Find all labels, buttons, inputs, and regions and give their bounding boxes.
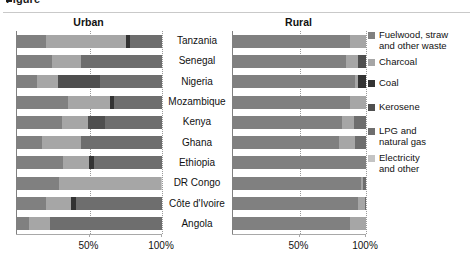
bar-segment [365,197,366,210]
bar-segment [68,96,110,109]
bar-segment [355,136,366,149]
bar-segment [358,75,366,88]
x-axis-tick-label: 50% [67,240,111,251]
bar-urban-tanzania [17,35,162,48]
legend-label: Kerosene [379,102,420,113]
bar-rural-ghana [233,136,366,149]
category-label-c-te-d-ivoire: Côte d'Ivoire [163,198,231,209]
bar-rural-dr-congo [233,177,366,190]
bar-segment [94,156,162,169]
bar-urban-kenya [17,116,162,129]
bar-segment [17,156,63,169]
bar-rural-tanzania [233,35,366,48]
bar-segment [350,217,366,230]
cut-off-figure-title: Figure [0,0,473,12]
bar-segment [358,197,365,210]
bar-segment [363,177,366,190]
legend-label: Coal [379,78,399,89]
bar-segment [17,197,46,210]
plot-area-urban [16,31,162,234]
bar-urban-ethiopia [17,156,162,169]
legend-item-fuelwood[interactable]: Fuelwood, straw and other waste [368,30,448,51]
bar-segment [81,136,162,149]
category-label-ghana: Ghana [163,137,231,148]
bar-segment [17,75,37,88]
bar-segment [346,55,358,68]
bar-urban-dr-congo [17,177,162,190]
category-label-angola: Angola [163,218,231,229]
plot-area-rural [232,31,366,234]
bar-urban-mozambique [17,96,162,109]
bar-segment [76,197,162,210]
bar-segment [233,75,355,88]
bar-segment [339,136,355,149]
legend-item-lpg[interactable]: LPG and natural gas [368,126,426,147]
category-label-mozambique: Mozambique [163,96,231,107]
bar-segment [350,96,366,109]
bar-segment [17,55,52,68]
bar-segment [46,35,126,48]
bar-urban-c-te-d-ivoire [17,197,162,210]
bar-segment [37,75,57,88]
legend-item-coal[interactable]: Coal [368,78,399,89]
bar-segment [233,217,350,230]
legend-label: LPG and natural gas [379,126,426,147]
category-label-tanzania: Tanzania [163,35,231,46]
legend-swatch-icon [368,59,375,66]
category-label-senegal: Senegal [163,55,231,66]
bar-segment [62,116,88,129]
bar-segment [100,75,162,88]
bar-urban-angola [17,217,162,230]
bar-rural-mozambique [233,96,366,109]
category-axis-labels: TanzaniaSenegalNigeriaMozambiqueKenyaGha… [161,31,231,234]
gridline-100 [366,31,367,234]
legend-swatch-icon [368,32,375,39]
x-axis-tick [161,234,162,237]
x-axis-tick-label: 100% [343,240,387,251]
panel-title-urban: Urban [16,16,161,28]
bar-rural-ethiopia [233,156,366,169]
figure-title-text: Figure [6,0,40,5]
bar-segment [42,136,81,149]
bar-segment [233,116,342,129]
bar-segment [342,116,354,129]
bar-segment [114,96,162,109]
legend-item-charcoal[interactable]: Charcoal [368,57,417,68]
legend-label: Fuelwood, straw and other waste [379,30,448,51]
bar-segment [233,35,350,48]
bar-urban-senegal [17,55,162,68]
bar-segment [50,217,162,230]
bar-segment [233,156,366,169]
bar-segment [59,177,161,190]
bar-segment [130,35,162,48]
bar-segment [350,35,366,48]
bar-segment [88,116,105,129]
category-label-nigeria: Nigeria [163,76,231,87]
bar-rural-nigeria [233,75,366,88]
bar-segment [17,177,59,190]
panel-title-rural: Rural [232,16,365,28]
legend-swatch-icon [368,80,375,87]
x-axis-tick [365,234,366,237]
bar-segment [17,116,62,129]
bar-segment [233,197,358,210]
category-label-kenya: Kenya [163,116,231,127]
bar-segment [17,96,68,109]
bar-segment [63,156,89,169]
x-axis-tick [89,234,90,237]
bar-segment [233,177,361,190]
legend-swatch-icon [368,155,375,162]
x-axis-tick-label: 50% [277,240,321,251]
bar-segment [233,96,350,109]
bar-rural-angola [233,217,366,230]
category-label-ethiopia: Ethiopia [163,157,231,168]
x-axis-tick-label: 100% [139,240,183,251]
legend-item-electricity[interactable]: Electricity and other [368,153,420,174]
bar-segment [17,136,42,149]
bar-segment [354,116,366,129]
legend-label: Charcoal [379,57,417,68]
legend-swatch-icon [368,128,375,135]
legend-swatch-icon [368,104,375,111]
x-axis-tick [299,234,300,237]
legend-item-kerosene[interactable]: Kerosene [368,102,420,113]
